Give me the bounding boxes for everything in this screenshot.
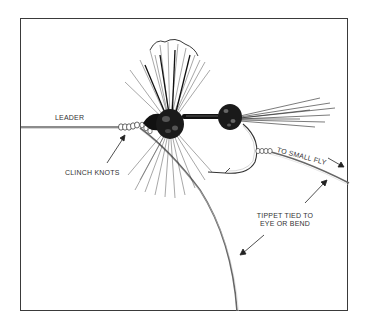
tippet-label-line2: EYE OR BEND <box>255 220 315 228</box>
clinch-knots-label: CLINCH KNOTS <box>65 169 120 177</box>
fly-rig-diagram: LEADER CLINCH KNOTS TO SMALL FLY TIPPET … <box>0 0 369 332</box>
wing-tips <box>150 39 198 56</box>
tippet-label-line1: TIPPET TIED TO <box>255 212 315 220</box>
fly-tail <box>240 98 335 127</box>
arrow-to-small-fly <box>328 158 344 167</box>
fly-thorax <box>156 109 184 139</box>
hook-shank <box>182 114 220 119</box>
arrow-tippet-down <box>240 235 264 255</box>
clinch-knot-leader <box>119 122 140 130</box>
leader-label: LEADER <box>55 114 84 122</box>
tippet-label: TIPPET TIED TO EYE OR BEND <box>255 212 315 228</box>
hook-bend <box>208 124 257 173</box>
fly-illustration <box>0 0 369 332</box>
leader-line <box>21 127 120 129</box>
clinch-knot-bend <box>256 148 272 153</box>
hook-barb <box>225 168 230 173</box>
arrow-clinch-knots <box>107 135 125 163</box>
fly-abdomen <box>218 104 242 130</box>
arrow-tippet-up <box>305 180 327 203</box>
